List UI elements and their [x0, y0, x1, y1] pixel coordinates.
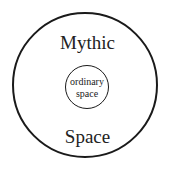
space-label: Space: [0, 127, 175, 147]
space-inner-label: space: [65, 88, 109, 99]
ordinary-label: ordinary: [65, 76, 109, 87]
mythic-label: Mythic: [0, 33, 175, 53]
ordinary-space-circle: [65, 65, 109, 109]
nested-circles-diagram: Mythic ordinary space Space: [0, 0, 175, 172]
